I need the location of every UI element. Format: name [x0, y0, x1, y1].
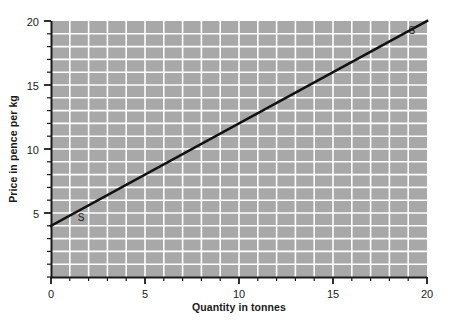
y-tick-label: 15 — [27, 80, 39, 92]
x-axis-tick-labels: 05101520 — [48, 288, 433, 300]
y-tick-label: 20 — [27, 16, 39, 28]
supply-label-lower: S — [78, 212, 85, 223]
y-tick-label: 5 — [33, 208, 39, 220]
y-tick-label: 10 — [27, 144, 39, 156]
x-tick-label: 20 — [421, 288, 433, 300]
x-tick-label: 5 — [142, 288, 148, 300]
x-axis-ticks — [51, 277, 427, 284]
x-axis-title: Quantity in tonnes — [192, 301, 286, 313]
y-axis-tick-labels: 5101520 — [27, 16, 39, 220]
supply-label-upper: S — [409, 25, 416, 36]
y-axis-ticks — [44, 21, 51, 277]
chart-figure: 05101520 5101520 SS Quantity in tonnes P… — [0, 0, 450, 324]
x-tick-label: 15 — [327, 288, 339, 300]
x-tick-label: 10 — [233, 288, 245, 300]
x-tick-label: 0 — [48, 288, 54, 300]
y-axis-title: Price in pence per kg — [7, 95, 19, 203]
supply-curve-chart: 05101520 5101520 SS Quantity in tonnes P… — [0, 0, 450, 324]
